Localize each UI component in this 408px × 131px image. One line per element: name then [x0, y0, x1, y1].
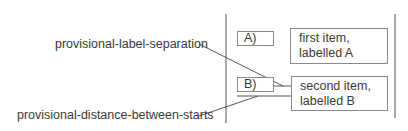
- callout-distance-between-starts: provisional-distance-between-starts: [17, 108, 214, 122]
- item-body-line: first item,: [299, 31, 387, 46]
- item-body-line: second item,: [300, 79, 387, 94]
- item-body-box-a: first item, labelled A: [290, 28, 388, 64]
- item-body-line: labelled B: [300, 94, 387, 109]
- item-label-text: A): [244, 31, 257, 45]
- item-label-box-b: B): [237, 77, 274, 92]
- item-body-box-b: second item, labelled B: [291, 76, 388, 111]
- item-label-text: B): [244, 77, 257, 91]
- item-body-line: labelled A: [299, 46, 387, 61]
- list-layout-diagram: provisional-label-separation provisional…: [0, 0, 408, 131]
- callout-label-separation: provisional-label-separation: [55, 37, 208, 51]
- item-label-box-a: A): [237, 31, 274, 46]
